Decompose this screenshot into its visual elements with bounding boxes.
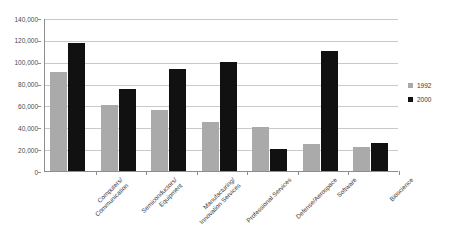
y-axis: 140,000120,000100,00080,00060,00040,0002… [0,19,40,172]
x-tick-mark [146,171,147,175]
bar-1992 [303,144,320,171]
x-tick-mark [96,171,97,175]
bar-2000 [321,51,338,171]
bar-2000 [119,89,136,171]
y-tick-mark [38,128,41,129]
bar-group [96,19,147,171]
x-axis-label: Defense/Aerospace [294,176,338,220]
bar-1992 [50,72,67,171]
x-axis-label: Computers/Communication [88,176,130,218]
x-tick-mark [298,171,299,175]
x-axis-label: Professional Services [245,176,293,224]
y-tick-label: 60,000 [0,103,38,110]
y-tick-label: 80,000 [0,81,38,88]
y-tick-mark [38,85,41,86]
bar-1992 [252,127,269,171]
x-tick-mark [399,171,400,175]
bar-2000 [169,69,186,171]
y-tick-label: 20,000 [0,147,38,154]
x-tick-mark [247,171,248,175]
bar-2000 [220,62,237,171]
x-axis-label: Manufacturing/Innovation Services [193,176,243,226]
bar-group [348,19,399,171]
legend-item: 1992 [408,78,452,92]
legend-swatch [408,97,413,102]
x-axis-label: Semiconductors/Equipment [140,176,184,220]
legend-swatch [408,83,413,88]
y-tick-mark [38,150,41,151]
bar-1992 [151,110,168,171]
y-tick-mark [38,41,41,42]
legend-label: 1992 [417,82,431,89]
bar-group [45,19,96,171]
legend-label: 2000 [417,96,431,103]
legend-item: 2000 [408,92,452,106]
bar-group [197,19,248,171]
plot-area [44,19,398,172]
bar-1992 [202,122,219,171]
y-tick-mark [38,19,41,20]
y-tick-mark [38,106,41,107]
y-tick-label: 40,000 [0,125,38,132]
y-tick-label: 100,000 [0,59,38,66]
x-axis-label: Software [335,176,358,199]
y-tick-label: 0 [0,169,38,176]
y-tick-label: 140,000 [0,16,38,23]
bar-group [298,19,349,171]
x-tick-mark [197,171,198,175]
x-axis-labels: Computers/CommunicationSemiconductors/Eq… [44,176,398,238]
bar-1992 [353,147,370,171]
y-tick-mark [38,63,41,64]
bar-chart: 140,000120,000100,00080,00060,00040,0002… [0,0,454,240]
x-axis-label: Bioscience [388,176,415,203]
bar-1992 [101,105,118,171]
y-tick-mark [38,172,41,173]
bar-2000 [371,143,388,171]
bar-group [146,19,197,171]
bar-2000 [68,43,85,171]
bar-2000 [270,149,287,171]
x-tick-mark [348,171,349,175]
chart-legend: 19922000 [408,78,452,106]
bar-group [247,19,298,171]
y-tick-label: 120,000 [0,37,38,44]
